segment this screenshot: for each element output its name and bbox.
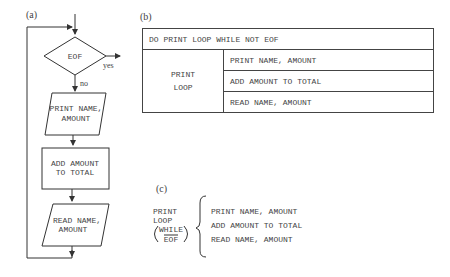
step-cell-3: READ NAME, AMOUNT [224, 92, 434, 113]
decision-text: EOF [68, 52, 83, 61]
structure-table: DO PRINT LOOP WHILE NOT EOF PRINT LOOP P… [142, 28, 434, 113]
c-step-2: ADD AMOUNT TO TOTAL [211, 219, 302, 233]
c-right-paren [184, 226, 188, 242]
loop-name-line1: PRINT [149, 68, 217, 81]
loop-name-cell: PRINT LOOP [143, 50, 224, 113]
process-add-line2: TO TOTAL [56, 168, 95, 177]
loop-header-cell: DO PRINT LOOP WHILE NOT EOF [143, 29, 434, 50]
io-print-line2: AMOUNT [62, 114, 91, 123]
c-block-name-line2: LOOP [153, 216, 172, 225]
io-print-line1: PRINT NAME, [50, 104, 103, 113]
step-cell-2: ADD AMOUNT TO TOTAL [224, 71, 434, 92]
yes-label: yes [103, 61, 114, 70]
step-cell-1: PRINT NAME, AMOUNT [224, 50, 434, 71]
c-curly-brace [196, 196, 206, 257]
c-condition-bottom: EOF [164, 235, 179, 244]
no-label: no [80, 79, 88, 88]
c-block-name-line1: PRINT [153, 207, 177, 216]
c-step-1: PRINT NAME, AMOUNT [211, 205, 302, 219]
c-condition-top: WHILE [159, 225, 183, 234]
loop-name-line2: LOOP [149, 81, 217, 94]
process-add-line1: ADD AMOUNT [51, 159, 99, 168]
io-read-line2: AMOUNT [59, 225, 88, 234]
c-step-3: READ NAME, AMOUNT [211, 233, 302, 247]
io-read-line1: READ NAME, [53, 216, 101, 225]
c-left-paren [155, 226, 159, 242]
c-steps: PRINT NAME, AMOUNT ADD AMOUNT TO TOTAL R… [211, 205, 302, 247]
